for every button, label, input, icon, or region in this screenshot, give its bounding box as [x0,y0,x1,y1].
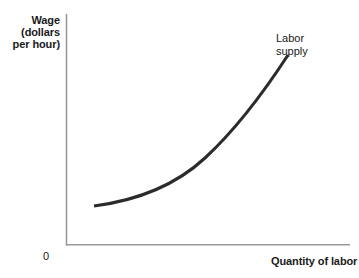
origin-label: 0 [43,250,49,262]
labor-supply-curve [94,55,288,206]
labor-supply-curve-label: Labor supply [276,32,308,57]
y-axis-label: Wage (dollars per hour) [13,14,60,50]
x-axis-label: Quantity of labor [271,255,357,267]
labor-supply-figure: Wage (dollars per hour) Quantity of labo… [0,0,359,278]
